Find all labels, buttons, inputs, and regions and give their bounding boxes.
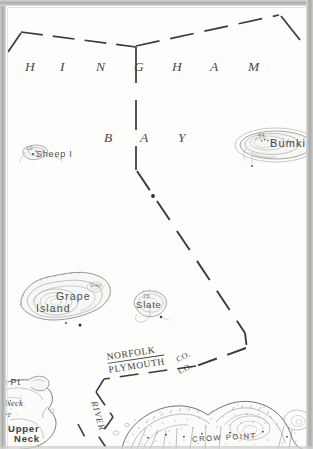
hingham-letter-g: G — [134, 60, 172, 74]
bay-letter-a: A — [140, 131, 178, 145]
hingham-letter-a: A — [210, 60, 248, 74]
frame-top-edge — [0, 0, 313, 6]
crow-point-label: CROW POINT — [192, 432, 257, 443]
hingham-letter-h1: H — [25, 60, 60, 74]
weir-river-label: RIVER — [89, 400, 106, 432]
map-labels: HINGHAM BAY 10 Sheep I 44 Bumkin Grape I… — [0, 0, 313, 449]
frame-left-edge — [0, 0, 6, 449]
hingham-letter-n: N — [96, 60, 134, 74]
sheep-island-dot — [32, 153, 34, 155]
sheep-island-elevation: 10 — [26, 146, 33, 152]
grape-island-elevation: Gap — [90, 283, 102, 289]
sheep-island-label: Sheep I — [36, 150, 73, 159]
map-sheet: HINGHAM BAY 10 Sheep I 44 Bumkin Grape I… — [0, 0, 313, 449]
grape-island-label: Grape — [56, 291, 91, 302]
bumkin-island-elevation: 44 — [258, 133, 265, 139]
hingham-bay-name: HINGHAM — [25, 60, 259, 74]
bay-letter-y: Y — [178, 131, 186, 145]
bay-name: BAY — [104, 131, 186, 145]
hingham-letter-m: M — [248, 60, 259, 74]
county-boundary-labels: NORFOLK PLYMOUTH — [106, 344, 165, 375]
hingham-letter-h2: H — [172, 60, 210, 74]
grape-island-label2: Island — [36, 303, 71, 314]
neck-label: Neck — [5, 399, 23, 408]
frame-right-edge — [306, 0, 313, 449]
upper-neck-label-line2: Neck — [14, 434, 40, 444]
bay-letter-b: B — [104, 131, 140, 145]
hingham-letter-i: I — [60, 60, 96, 74]
slate-island-label: Slate — [136, 300, 162, 310]
